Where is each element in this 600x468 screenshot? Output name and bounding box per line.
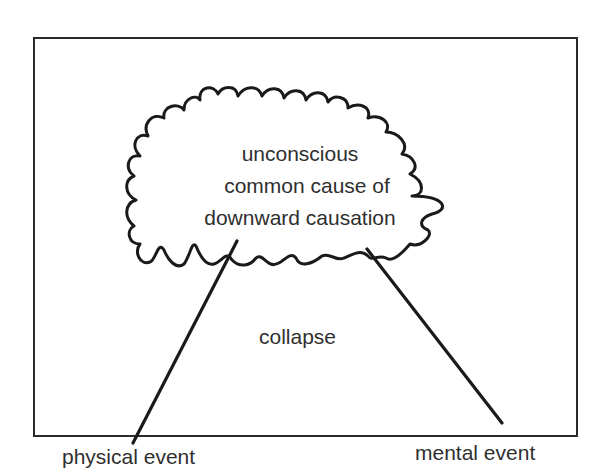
physical-event-label: physical event	[62, 446, 195, 467]
cloud-line-3: downward causation	[170, 202, 430, 234]
left-connector-line	[133, 241, 237, 443]
right-connector-line	[367, 249, 502, 423]
mental-event-label: mental event	[415, 442, 535, 463]
collapse-label: collapse	[259, 326, 336, 347]
cloud-line-2: common cause of	[170, 170, 430, 202]
cloud-line-1: unconscious	[170, 138, 430, 170]
cloud-label: unconscious common cause of downward cau…	[170, 138, 430, 234]
